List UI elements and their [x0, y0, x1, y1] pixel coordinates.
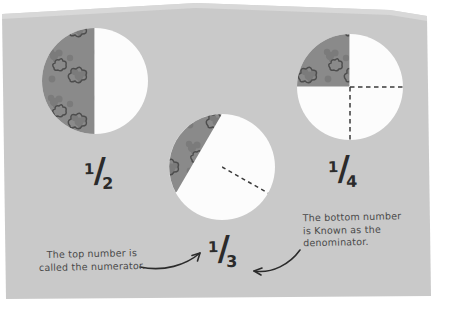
book-page: 1/2 1/3 1/4 The top number is called the… [0, 0, 449, 310]
fraction-circle-third [169, 114, 275, 220]
fraction-half-denominator: 2 [102, 174, 113, 193]
fraction-third-denominator: 3 [226, 252, 237, 271]
fraction-circle-quarter [297, 34, 403, 140]
fraction-circle-half [42, 28, 148, 134]
fraction-label-quarter: 1/4 [328, 148, 360, 189]
caption-numerator: The top number is called the numerator. [22, 247, 162, 275]
fraction-third-numerator: 1 [208, 238, 218, 256]
fraction-quarter-numerator: 1 [328, 158, 338, 176]
fraction-quarter-denominator: 4 [346, 172, 357, 191]
fraction-half-numerator: 1 [84, 160, 94, 178]
fraction-label-third: 1/3 [208, 228, 240, 269]
fraction-label-half: 1/2 [84, 150, 116, 191]
caption-denominator: The bottom number is Known as the denomi… [303, 210, 432, 250]
